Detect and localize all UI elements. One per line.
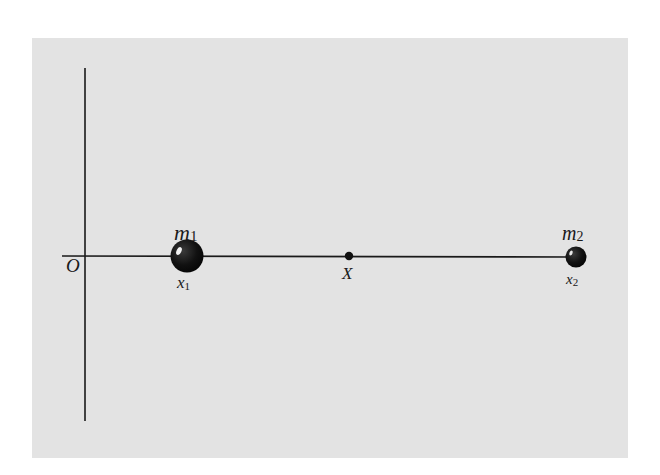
mass-1: m1 x1	[171, 220, 204, 292]
mass-1-position-label: x1	[176, 273, 190, 292]
mass-1-label: m1	[174, 220, 197, 245]
mass-2-position-label: x2	[565, 271, 578, 288]
center-of-mass-diagram: O m1 x1 X m2 x2	[0, 0, 660, 475]
center-of-mass-label: X	[341, 264, 353, 283]
center-of-mass-dot	[345, 252, 353, 260]
mass-2: m2 x2	[562, 222, 587, 288]
origin-label: O	[66, 255, 80, 276]
mass-2-label: m2	[562, 222, 583, 244]
x-axis	[62, 256, 572, 257]
mass-2-sphere	[566, 247, 587, 268]
